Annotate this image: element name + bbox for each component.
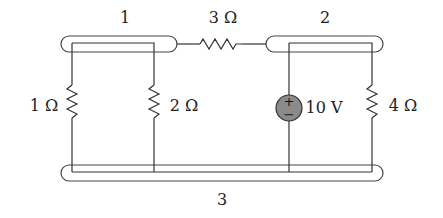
r2-label: 2 Ω bbox=[170, 96, 199, 115]
r1-label: 1 Ω bbox=[30, 96, 59, 115]
resistor-1-ohm bbox=[67, 85, 77, 118]
node-2-label: 2 bbox=[320, 8, 330, 27]
resistor-2-ohm bbox=[149, 85, 159, 118]
node-3-bubble bbox=[61, 165, 383, 181]
node-2-wire bbox=[289, 43, 372, 85]
voltage-source-10v: + − bbox=[276, 94, 302, 122]
node-1-label: 1 bbox=[120, 8, 130, 27]
minus-sign: − bbox=[284, 107, 295, 122]
node-2-bubble bbox=[266, 36, 383, 52]
circuit-diagram: 1 2 3 3 Ω 1 Ω 2 Ω + − 10 V 4 Ω bbox=[0, 0, 443, 218]
r3-label: 3 Ω bbox=[209, 8, 238, 27]
resistor-3-ohm bbox=[200, 39, 243, 49]
source-label: 10 V bbox=[306, 98, 343, 117]
node-1-bubble bbox=[61, 36, 177, 52]
r4-label: 4 Ω bbox=[389, 96, 418, 115]
node-3-label: 3 bbox=[217, 190, 227, 209]
resistor-4-ohm bbox=[367, 85, 377, 118]
